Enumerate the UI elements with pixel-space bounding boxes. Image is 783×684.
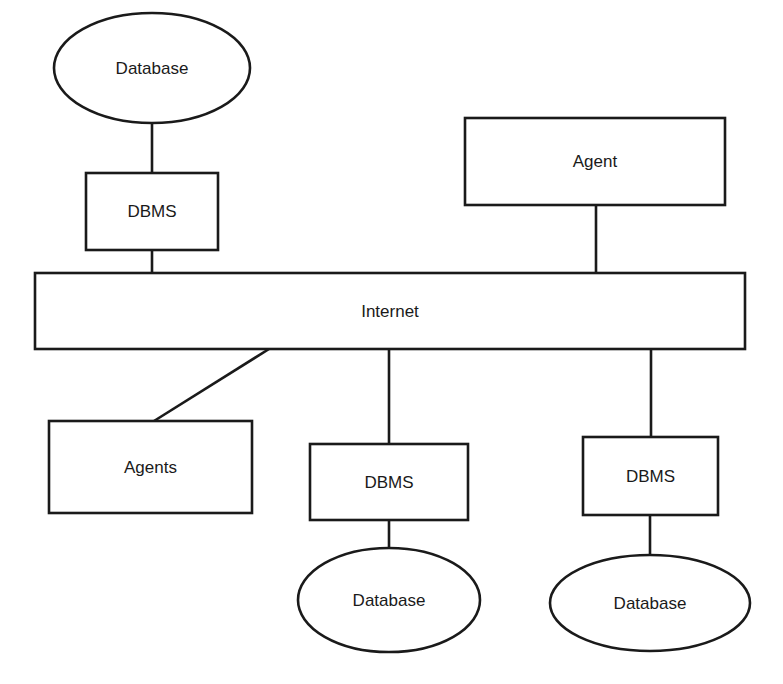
node-label: DBMS (626, 467, 675, 486)
nodes: DatabaseDBMSAgentInternetAgentsDBMSDatab… (35, 13, 750, 652)
node-agent_top: Agent (465, 118, 725, 205)
edge-internet-agents (154, 349, 269, 421)
node-db_top: Database (54, 13, 250, 123)
node-label: Agent (573, 152, 618, 171)
node-internet: Internet (35, 273, 745, 349)
node-dbms_mid: DBMS (310, 444, 468, 520)
node-dbms_top: DBMS (86, 173, 218, 250)
network-diagram: DatabaseDBMSAgentInternetAgentsDBMSDatab… (0, 0, 783, 684)
node-label: Agents (124, 458, 177, 477)
node-label: Database (614, 594, 687, 613)
node-label: DBMS (364, 473, 413, 492)
node-label: Database (353, 591, 426, 610)
node-db_mid: Database (298, 548, 480, 652)
node-label: Database (116, 59, 189, 78)
node-label: Internet (361, 302, 419, 321)
node-dbms_right: DBMS (583, 437, 718, 515)
node-db_right: Database (550, 555, 750, 651)
node-label: DBMS (127, 202, 176, 221)
node-agents: Agents (49, 421, 252, 513)
